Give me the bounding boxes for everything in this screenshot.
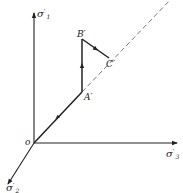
sigma2-label: σ′2 (6, 182, 19, 193)
point-a-label: A′ (83, 92, 93, 102)
stress-path-diagram: σ′1 σ′3 σ′2 o A′ B′ C′ (0, 0, 183, 193)
point-c-label: C′ (106, 59, 115, 69)
sigma1-label: σ′1 (37, 8, 50, 20)
origin-label: o (25, 137, 31, 147)
sigma3-label: σ′3 (166, 148, 179, 160)
point-b-label: B′ (76, 29, 86, 39)
arrow-ab-icon (80, 63, 84, 68)
sigma2-axis (8, 143, 34, 184)
hydrostatic-axis-dashed (82, 0, 172, 92)
